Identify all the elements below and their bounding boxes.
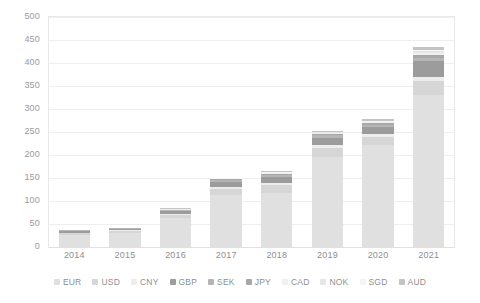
bar-column[interactable] [261,171,292,247]
legend-item-cny[interactable]: CNY [131,277,159,287]
bar-column[interactable] [160,208,191,247]
bar-segment [261,193,292,247]
legend-item-jpy[interactable]: JPY [246,277,271,287]
legend-swatch-icon [92,279,98,285]
legend-item-aud[interactable]: AUD [399,277,427,287]
y-axis-tick-label: 100 [0,195,40,205]
legend-label: CAD [291,277,310,287]
legend-item-gbp[interactable]: GBP [170,277,198,287]
bar-segment [261,185,292,192]
legend-item-eur[interactable]: EUR [54,277,82,287]
x-axis-tick-label: 2014 [49,250,100,260]
y-axis-tick-label: 400 [0,57,40,67]
bar-column[interactable] [312,131,343,247]
legend-swatch-icon [54,279,60,285]
x-axis-tick-label: 2017 [201,250,252,260]
x-axis-tick-label: 2021 [403,250,454,260]
y-axis-tick-label: 300 [0,103,40,113]
legend-item-sek[interactable]: SEK [208,277,235,287]
legend-label: AUD [408,277,427,287]
bar-column[interactable] [109,228,140,247]
legend-swatch-icon [246,279,252,285]
bar-column[interactable] [362,119,393,247]
gridline [49,247,454,248]
legend-label: SGD [369,277,388,287]
legend-label: CNY [140,277,159,287]
legend-swatch-icon [399,279,405,285]
legend-label: SEK [217,277,235,287]
legend-label: USD [101,277,120,287]
x-axis-tick-label: 2016 [150,250,201,260]
bar-column[interactable] [59,230,90,247]
legend-item-nok[interactable]: NOK [320,277,348,287]
y-axis-tick-label: 350 [0,80,40,90]
bar-column[interactable] [210,178,241,247]
legend-swatch-icon [360,279,366,285]
y-axis-tick-label: 500 [0,11,40,21]
bar-segment [109,233,140,247]
y-axis-tick-label: 50 [0,218,40,228]
legend-item-usd[interactable]: USD [92,277,120,287]
legend-item-sgd[interactable]: SGD [360,277,388,287]
bar-segment [160,218,191,247]
legend-label: EUR [63,277,82,287]
bar-segment [312,157,343,247]
bar-segment [413,81,444,95]
bar-segment [210,195,241,247]
y-axis-tick-label: 0 [0,241,40,251]
x-axis-tick-label: 2019 [302,250,353,260]
y-axis-tick-label: 150 [0,172,40,182]
x-axis-tick-label: 2018 [252,250,303,260]
bar-column[interactable] [413,47,444,247]
y-axis-tick-label: 450 [0,34,40,44]
x-axis: 20142015201620172018201920202021 [49,250,454,266]
legend-swatch-icon [320,279,326,285]
chart-legend: EURUSDCNYGBPSEKJPYCADNOKSGDAUD [0,277,480,287]
legend-label: JPY [255,277,271,287]
bar-segment [362,145,393,247]
stacked-bar-chart: 050100150200250300350400450500 201420152… [0,0,480,303]
bar-segment [362,137,393,145]
bar-segment [362,127,393,134]
legend-swatch-icon [208,279,214,285]
legend-item-cad[interactable]: CAD [282,277,310,287]
legend-label: NOK [329,277,348,287]
bars-layer [49,17,454,247]
bar-segment [413,95,444,247]
bar-segment [312,148,343,157]
bar-segment [59,235,90,247]
legend-swatch-icon [131,279,137,285]
legend-swatch-icon [282,279,288,285]
x-axis-tick-label: 2020 [353,250,404,260]
legend-swatch-icon [170,279,176,285]
bar-segment [312,138,343,145]
bar-segment [413,61,444,77]
x-axis-tick-label: 2015 [100,250,151,260]
y-axis-tick-label: 250 [0,126,40,136]
y-axis-tick-label: 200 [0,149,40,159]
legend-label: GBP [179,277,198,287]
